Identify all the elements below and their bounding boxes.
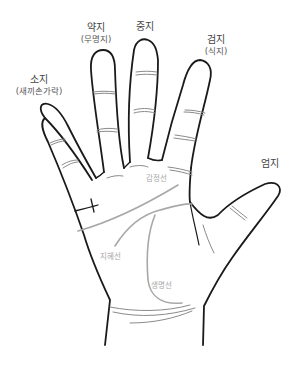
label-heart-line: 감정선 [146,172,167,183]
label-pinky-alt: (새끼손가락) [16,86,63,97]
label-index: 검지 (식지) [205,34,228,57]
pinky-finger-outline [41,104,96,180]
label-head-line: 지혜선 [100,250,121,261]
label-index-name: 검지 [207,34,225,45]
label-ring-name: 약지 [87,22,105,33]
label-ring: 약지 (무명지) [81,22,112,45]
head-line [115,204,192,246]
label-thumb-name: 엄지 [261,158,279,169]
label-thumb: 엄지 [261,158,279,170]
ring-finger-outline [91,50,124,172]
label-life-line: 생명선 [151,279,172,290]
middle-finger-outline [129,39,158,162]
label-middle-name: 중지 [136,21,154,32]
label-ring-alt: (무명지) [81,34,112,45]
life-line [147,215,182,303]
index-finger-outline [162,60,211,168]
label-pinky: 소지 (새끼손가락) [16,74,63,97]
label-pinky-name: 소지 [30,74,48,85]
palm-right-outline [190,168,280,345]
palm-left-outline [42,118,110,345]
label-middle: 중지 [136,21,154,33]
label-index-alt: (식지) [205,46,228,57]
hand-illustration [0,0,295,371]
